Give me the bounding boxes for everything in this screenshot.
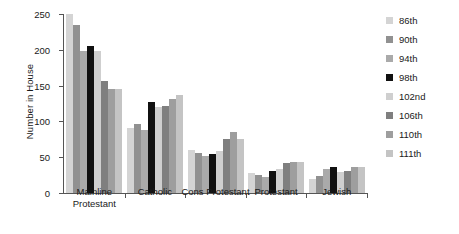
bar-group [66, 14, 122, 193]
legend-label: 90th [399, 34, 418, 45]
y-axis-tick-label: 50 [39, 152, 50, 163]
legend-item[interactable]: 110th [386, 125, 456, 144]
bar-group [248, 14, 304, 193]
bar-group [188, 14, 244, 193]
legend-label: 86th [399, 15, 418, 26]
legend-label: 106th [399, 110, 423, 121]
legend-swatch-icon [386, 131, 393, 138]
legend-item[interactable]: 106th [386, 106, 456, 125]
y-axis-tick [59, 157, 64, 158]
bar [115, 89, 122, 193]
legend-swatch-icon [386, 55, 393, 62]
bar [169, 99, 176, 194]
legend-swatch-icon [386, 17, 393, 24]
legend-swatch-icon [386, 150, 393, 157]
bar [237, 139, 244, 193]
bar [87, 46, 94, 193]
y-axis-tick [59, 50, 64, 51]
chart-legend: 86th90th94th98th102nd106th110th111th [386, 11, 456, 163]
bar [101, 81, 108, 193]
bar-chart: Number in House 050100150200250 Mainline… [0, 0, 459, 234]
legend-label: 110th [399, 129, 422, 140]
bar [80, 51, 87, 193]
bar [66, 14, 73, 193]
bar [148, 102, 155, 193]
bar [94, 51, 101, 193]
bar [108, 89, 115, 193]
bar [162, 106, 169, 193]
bar [127, 128, 134, 193]
bar [230, 132, 237, 193]
legend-item[interactable]: 98th [386, 68, 456, 87]
legend-label: 98th [399, 72, 418, 83]
x-axis-category-label: Jewish [286, 186, 387, 198]
legend-item[interactable]: 94th [386, 49, 456, 68]
legend-label: 111th [399, 148, 421, 159]
legend-swatch-icon [386, 93, 393, 100]
bar [73, 25, 80, 193]
bar-group [309, 14, 365, 193]
bar-group [127, 14, 183, 193]
y-axis-tick-label: 150 [34, 80, 50, 91]
y-axis-tick [59, 86, 64, 87]
y-axis-tick-label: 250 [34, 9, 50, 20]
y-axis-tick [59, 121, 64, 122]
y-axis-line [63, 14, 64, 194]
y-axis-tick-label: 200 [34, 44, 50, 55]
legend-swatch-icon [386, 36, 393, 43]
plot-area: 050100150200250 [64, 14, 367, 193]
legend-item[interactable]: 102nd [386, 87, 456, 106]
legend-item[interactable]: 90th [386, 30, 456, 49]
legend-swatch-icon [386, 112, 393, 119]
bar [141, 130, 148, 193]
y-axis-tick [59, 14, 64, 15]
bar [134, 124, 141, 193]
y-axis-title: Number in House [24, 27, 35, 177]
bar [176, 95, 183, 193]
legend-swatch-icon [386, 74, 393, 81]
legend-item[interactable]: 111th [386, 144, 456, 163]
y-axis-tick-label: 100 [34, 116, 50, 127]
legend-label: 102nd [399, 91, 425, 102]
bar [155, 107, 162, 193]
bar [223, 139, 230, 193]
legend-item[interactable]: 86th [386, 11, 456, 30]
legend-label: 94th [399, 53, 418, 64]
